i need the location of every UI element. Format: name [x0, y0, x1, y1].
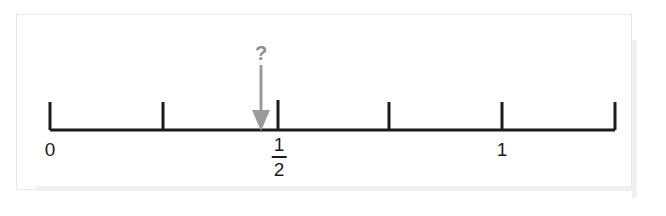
arrow-head — [252, 110, 270, 131]
question-mark-label: ? — [255, 43, 267, 63]
fraction-bar — [272, 156, 287, 158]
axis-label-one: 1 — [497, 140, 508, 159]
number-line-figure-screenshot: ? 0 1 2 1 — [0, 0, 666, 216]
axis-label-one-half: 1 2 — [272, 135, 287, 180]
unknown-point-arrow-icon — [252, 65, 270, 131]
number-line-svg — [0, 0, 666, 216]
axis-label-zero: 0 — [45, 140, 56, 159]
fraction-numerator: 1 — [272, 135, 287, 156]
number-line-stage — [0, 0, 666, 216]
fraction-denominator: 2 — [272, 159, 287, 180]
